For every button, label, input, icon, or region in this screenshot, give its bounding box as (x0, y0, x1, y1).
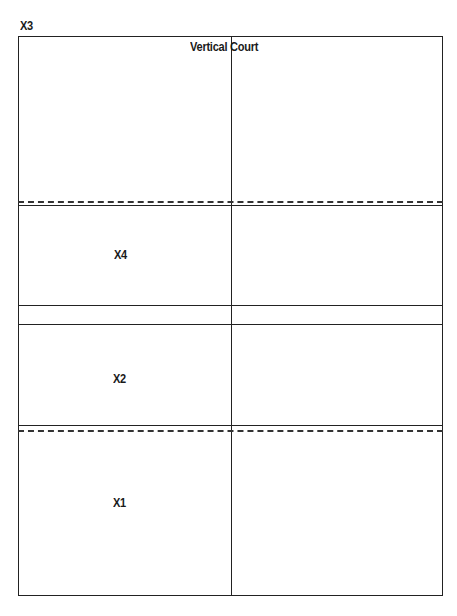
upper-dashed-line (18, 201, 443, 203)
mid-upper-line (18, 305, 443, 306)
court-title: Vertical Court (190, 39, 258, 54)
zone-label-x1: X1 (113, 495, 126, 510)
zone-label-x2: X2 (113, 371, 126, 386)
lower-solid-line (18, 425, 443, 426)
corner-label: X3 (20, 18, 33, 33)
center-divider-line (231, 36, 232, 596)
lower-dashed-line (18, 430, 443, 432)
upper-solid-line (18, 205, 443, 206)
zone-label-x4: X4 (114, 247, 127, 262)
mid-lower-line (18, 324, 443, 325)
